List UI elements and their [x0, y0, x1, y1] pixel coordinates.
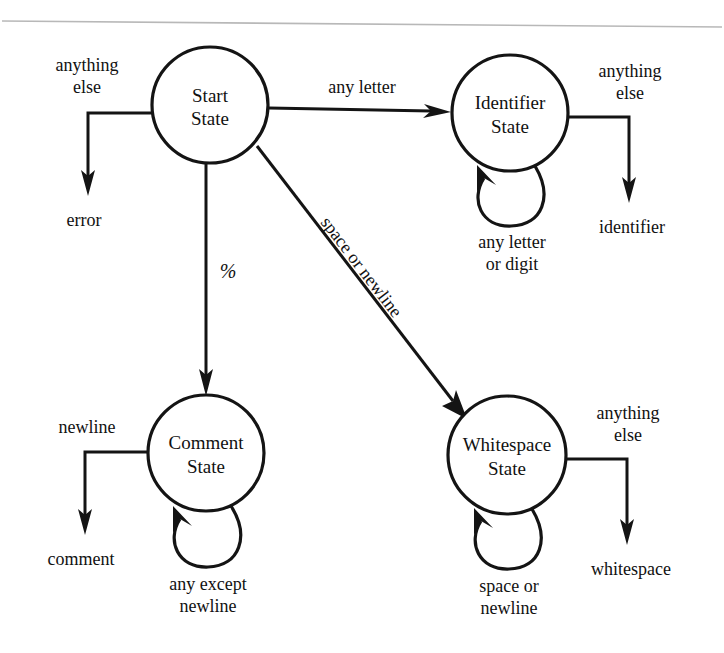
state-label-whitespace-line1: Whitespace — [463, 434, 552, 455]
edge-label-identifier-exit-line2: else — [616, 83, 644, 103]
output-label-whitespace: whitespace — [591, 559, 671, 579]
edge-label-start-error-line2: else — [73, 77, 101, 97]
edge-label-percent: % — [220, 260, 237, 282]
edge-whitespace-to-token — [567, 459, 634, 545]
edge-label-comment-loop-line1: any except — [169, 574, 246, 594]
state-machine-diagram: Start State Identifier State Comment Sta… — [0, 0, 724, 653]
state-label-comment-line1: Comment — [169, 432, 245, 453]
edge-label-identifier-loop-line1: any letter — [478, 232, 545, 252]
top-divider-rule — [2, 21, 722, 27]
edge-label-comment-loop-line2: newline — [180, 596, 237, 616]
edge-identifier-to-token — [568, 117, 636, 203]
state-whitespace[interactable]: Whitespace State — [448, 396, 566, 514]
state-label-whitespace-line2: State — [488, 458, 526, 479]
edge-label-whitespace-loop-line1: space or — [479, 576, 538, 596]
state-identifier[interactable]: Identifier State — [452, 55, 568, 171]
state-start[interactable]: Start State — [152, 47, 268, 163]
edge-label-start-error-line1: anything — [56, 55, 119, 75]
edge-start-to-comment — [199, 163, 213, 396]
edge-label-whitespace-exit-line1: anything — [597, 403, 660, 423]
state-label-identifier-line1: Identifier — [475, 92, 546, 113]
edge-identifier-self-loop — [477, 165, 544, 226]
edge-label-whitespace-exit-line2: else — [614, 425, 642, 445]
edge-label-whitespace-loop-line2: newline — [481, 598, 538, 618]
edge-label-identifier-exit-line1: anything — [599, 61, 662, 81]
output-label-identifier: identifier — [599, 217, 665, 237]
state-label-comment-line2: State — [187, 456, 225, 477]
state-comment[interactable]: Comment State — [148, 395, 264, 511]
output-label-error: error — [67, 210, 102, 230]
edge-label-identifier-loop-line2: or digit — [486, 254, 539, 274]
state-label-start-line1: Start — [192, 85, 229, 106]
edge-start-to-error — [81, 113, 152, 196]
edge-comment-self-loop — [173, 506, 241, 567]
diagram-page: Start State Identifier State Comment Sta… — [0, 0, 724, 653]
edge-label-any-letter: any letter — [328, 77, 395, 97]
edge-whitespace-self-loop — [474, 508, 541, 569]
edge-start-to-identifier — [269, 104, 451, 118]
state-label-start-line2: State — [191, 108, 229, 129]
edge-label-comment-exit-newline: newline — [59, 417, 116, 437]
output-label-comment: comment — [48, 549, 115, 569]
state-label-identifier-line2: State — [491, 116, 529, 137]
edge-label-space-or-newline: space or newline — [317, 213, 407, 321]
edge-comment-to-token — [78, 452, 148, 535]
